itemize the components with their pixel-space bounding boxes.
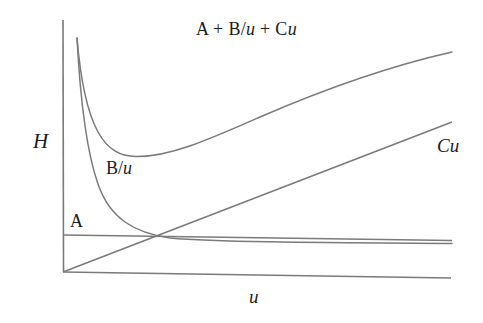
x-axis-label: u (249, 287, 259, 306)
curve-a (63, 235, 452, 241)
x-axis (63, 272, 451, 278)
title-term-c: C (275, 19, 287, 39)
y-axis-label: H (33, 131, 48, 152)
title-term-b: B/ (228, 19, 246, 39)
curve-bu-label-variable: u (123, 158, 132, 178)
curve-cu-label: Cu (437, 136, 459, 155)
van-deemter-figure: A + B/u + Cu H u B/u A Cu (0, 0, 483, 323)
title-term-a: A (196, 19, 208, 39)
title-term-b-variable: u (246, 19, 255, 39)
plot-canvas (0, 0, 483, 323)
y-axis (63, 20, 64, 272)
curve-total (77, 38, 452, 157)
curve-cu-label-variable: u (450, 135, 460, 156)
curve-bu-label-prefix: B/ (106, 158, 123, 178)
curve-cu (63, 122, 452, 272)
curve-b-over-u-label: B/u (106, 159, 132, 177)
title-operator-1: + (208, 19, 228, 39)
title-operator-2: + (255, 19, 275, 39)
curve-a-label: A (70, 212, 83, 230)
title-term-c-variable: u (288, 19, 297, 39)
curve-cu-label-prefix: C (437, 135, 450, 156)
equation-title: A + B/u + Cu (196, 20, 297, 38)
curve-b-over-u (77, 38, 452, 244)
